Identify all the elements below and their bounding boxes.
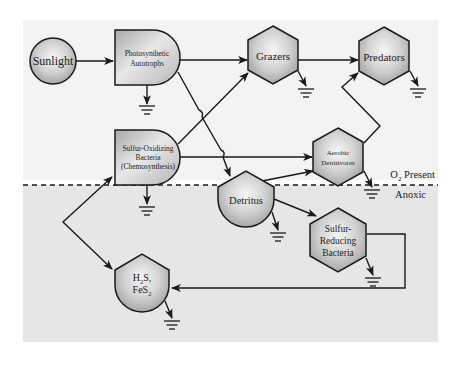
diagram-canvas: O2 Present Anoxic xyxy=(0,0,458,365)
sulfred-label-1: Sulfur- xyxy=(325,224,352,234)
energy-flow-diagram: O2 Present Anoxic xyxy=(0,0,458,365)
sulfox-label-1: Sulfur-Oxidizing xyxy=(122,144,173,153)
o2-present-label: O2 Present xyxy=(390,169,435,183)
sulfred-label-3: Bacteria xyxy=(322,248,354,258)
anoxic-label: Anoxic xyxy=(395,189,426,200)
sulfox-label-3: (Chemosynthesis) xyxy=(121,162,176,171)
photo-label-2: Autotrophs xyxy=(130,59,164,68)
photo-label-1: Photosynthetic xyxy=(125,49,170,58)
sulfox-label-2: Bacteria xyxy=(136,153,162,162)
aerobic-label-2: Detritivores xyxy=(321,159,355,167)
grazers-label: Grazers xyxy=(256,50,290,62)
node-photosynthetic-autotrophs: Photosynthetic Autotrophs xyxy=(115,30,180,85)
predators-label: Predators xyxy=(363,51,405,63)
detritus-label: Detritus xyxy=(229,195,263,206)
sulfred-label-2: Reducing xyxy=(320,236,357,246)
aerobic-label-1: Aerobic xyxy=(327,149,350,157)
node-sunlight: Sunlight xyxy=(30,38,76,84)
sunlight-label: Sunlight xyxy=(33,54,74,68)
node-sulfur-oxidizing-bacteria: Sulfur-Oxidizing Bacteria (Chemosynthesi… xyxy=(115,130,180,185)
